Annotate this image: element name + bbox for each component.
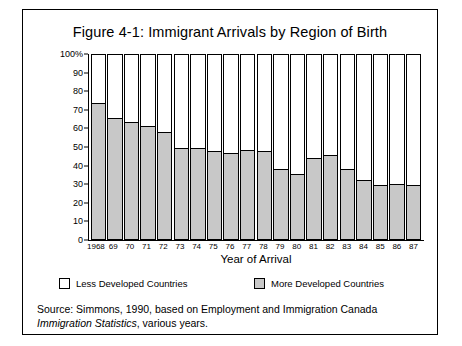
legend-label-less-developed: Less Developed Countries <box>76 278 187 289</box>
source-publication-title: Immigration Statistics <box>37 317 137 329</box>
bar-column[interactable] <box>124 54 139 240</box>
x-axis-tick-label: 80 <box>288 242 305 251</box>
x-axis-tick-label: 77 <box>238 242 255 251</box>
bar-column[interactable] <box>373 54 388 240</box>
y-axis-tick-label: 20 <box>73 198 83 208</box>
x-axis-tick-labels: 1968697071727374757677787980818283848586… <box>90 242 422 251</box>
bar-column[interactable] <box>190 54 205 240</box>
x-axis-tick-label: 71 <box>138 242 155 251</box>
bar-segment-more-developed <box>374 185 387 239</box>
legend-item-more-developed: More Developed Countries <box>254 278 384 289</box>
bar-segment-more-developed <box>407 185 420 239</box>
legend-swatch-more-developed-icon <box>254 278 265 289</box>
bar-column[interactable] <box>406 54 421 240</box>
bars-container <box>90 54 422 240</box>
x-axis-line <box>88 240 424 241</box>
y-axis-tick-label: 70 <box>73 105 83 115</box>
x-axis-tick-label: 72 <box>155 242 172 251</box>
y-axis-tick-label: 60 <box>73 123 83 133</box>
x-axis-tick-label: 83 <box>338 242 355 251</box>
y-axis-tick-label: 30 <box>73 179 83 189</box>
source-line-2: Immigration Statistics, various years. <box>37 316 429 330</box>
bar-column[interactable] <box>91 54 106 240</box>
x-axis-tick-label: 76 <box>222 242 239 251</box>
bar-column[interactable] <box>306 54 321 240</box>
x-axis-tick-label: 82 <box>322 242 339 251</box>
source-line-1: Source: Simmons, 1990, based on Employme… <box>37 302 429 316</box>
bar-column[interactable] <box>174 54 189 240</box>
bar-column[interactable] <box>290 54 305 240</box>
bar-segment-more-developed <box>158 132 171 239</box>
bar-segment-more-developed <box>208 151 221 239</box>
bar-segment-more-developed <box>307 158 320 239</box>
x-axis-title: Year of Arrival <box>88 253 424 265</box>
bar-column[interactable] <box>240 54 255 240</box>
y-axis-tick-label: 90 <box>73 68 83 78</box>
chart-legend: Less Developed Countries More Developed … <box>59 278 409 294</box>
y-axis-tick-label: 10 <box>73 216 83 226</box>
bar-segment-more-developed <box>125 122 138 239</box>
legend-item-less-developed: Less Developed Countries <box>59 278 187 289</box>
x-axis-tick-label: 87 <box>405 242 422 251</box>
y-axis: 100%9080706050403020100 <box>56 54 88 240</box>
bar-segment-more-developed <box>191 148 204 239</box>
bar-segment-more-developed <box>92 103 105 239</box>
bar-column[interactable] <box>356 54 371 240</box>
bar-column[interactable] <box>273 54 288 240</box>
legend-label-more-developed: More Developed Countries <box>271 278 384 289</box>
x-axis-tick-label: 69 <box>105 242 122 251</box>
x-axis-tick-label: 79 <box>272 242 289 251</box>
bar-column[interactable] <box>157 54 172 240</box>
source-line-2-rest: , various years. <box>137 317 208 329</box>
bar-column[interactable] <box>140 54 155 240</box>
bar-column[interactable] <box>323 54 338 240</box>
bar-segment-more-developed <box>274 169 287 239</box>
y-axis-tick-label: 40 <box>73 161 83 171</box>
x-axis-tick-label: 73 <box>172 242 189 251</box>
y-axis-tick-label: 80 <box>73 86 83 96</box>
x-axis-tick-label: 78 <box>255 242 272 251</box>
bar-segment-more-developed <box>258 151 271 239</box>
bar-segment-more-developed <box>324 155 337 239</box>
y-axis-tick-label: 50 <box>73 142 83 152</box>
x-axis-tick-label: 81 <box>305 242 322 251</box>
bar-segment-more-developed <box>175 148 188 239</box>
bar-segment-more-developed <box>224 153 237 239</box>
x-axis-tick-label: 74 <box>188 242 205 251</box>
legend-swatch-less-developed-icon <box>59 278 70 289</box>
figure-frame: Figure 4-1: Immigrant Arrivals by Region… <box>22 9 438 335</box>
bar-segment-more-developed <box>390 184 403 239</box>
x-axis-tick-label: 75 <box>205 242 222 251</box>
bar-segment-more-developed <box>141 126 154 239</box>
bar-segment-more-developed <box>357 180 370 239</box>
bar-column[interactable] <box>207 54 222 240</box>
bar-segment-more-developed <box>108 118 121 239</box>
x-axis-tick-label: 1968 <box>87 242 105 251</box>
bar-column[interactable] <box>340 54 355 240</box>
bar-segment-more-developed <box>291 174 304 239</box>
bar-column[interactable] <box>389 54 404 240</box>
x-axis-tick-label: 70 <box>121 242 138 251</box>
bar-segment-more-developed <box>341 169 354 239</box>
source-note: Source: Simmons, 1990, based on Employme… <box>37 302 429 330</box>
y-axis-tick-label: 100% <box>60 49 83 59</box>
figure-title: Figure 4-1: Immigrant Arrivals by Region… <box>23 24 437 40</box>
bar-column[interactable] <box>107 54 122 240</box>
bar-column[interactable] <box>223 54 238 240</box>
y-axis-line <box>88 54 89 240</box>
x-axis-tick-label: 84 <box>355 242 372 251</box>
x-axis-tick-label: 85 <box>372 242 389 251</box>
x-axis-tick-label: 86 <box>388 242 405 251</box>
y-axis-tick-label: 0 <box>78 235 83 245</box>
bar-column[interactable] <box>257 54 272 240</box>
plot-area: 100%9080706050403020100 1968697071727374… <box>56 54 424 254</box>
bar-segment-more-developed <box>241 150 254 239</box>
